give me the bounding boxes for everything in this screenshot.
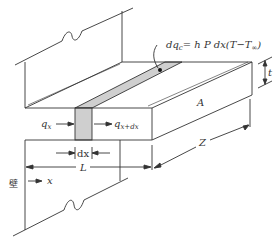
strip-point-marker: [158, 68, 162, 72]
area-label: A: [196, 97, 204, 108]
equation-leader: [154, 45, 158, 68]
length-label: L: [79, 162, 87, 173]
l-dimension: [26, 165, 151, 169]
dx-label: dx: [77, 148, 89, 159]
fin-diagram: dqc= h P dx(T−T∞) t A qx qx+dx dx L Z x …: [0, 0, 280, 250]
diagram-canvas: dqc= h P dx(T−T∞) t A qx qx+dx dx L Z x …: [0, 0, 280, 250]
z-dimension: [152, 99, 250, 170]
width-label: Z: [198, 137, 207, 148]
x-label: x: [47, 175, 53, 186]
convection-equation: dqc= h P dx(T−T∞): [166, 39, 261, 52]
thickness-label: t: [268, 67, 273, 78]
wall-label: 壁: [9, 178, 18, 189]
x-axis-arrow: [28, 179, 42, 183]
q-in-label: qx: [41, 118, 51, 131]
q-out-label: qx+dx: [114, 118, 139, 131]
